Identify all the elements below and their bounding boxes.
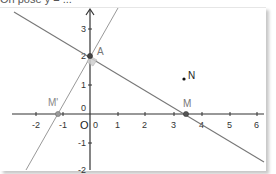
label-M: M [183, 98, 191, 109]
y-tick-label: 0 [81, 103, 86, 113]
x-tick-label: 2 [142, 120, 147, 130]
y-tick-label: 1 [81, 80, 86, 90]
x-tick-label: 1 [115, 120, 120, 130]
x-tick-label: -2 [32, 120, 40, 130]
line-AM [14, 12, 264, 162]
x-tick-label: 5 [227, 120, 232, 130]
y-tick-label: 3 [81, 24, 86, 34]
label-M-prime: M' [48, 97, 58, 108]
x-tick-label: 6 [254, 120, 259, 130]
x-tick-label: 0 [93, 120, 98, 130]
point-A[interactable] [87, 53, 92, 58]
coordinate-plane: -2 -1 0 1 2 3 4 5 6 3 2 1 0 -1 -2 O A M … [0, 0, 276, 174]
label-N: N [188, 70, 195, 81]
x-tick-label: 3 [171, 120, 176, 130]
line-AM-prime [26, 8, 118, 170]
point-M-prime[interactable] [55, 111, 60, 116]
x-tick-label: -1 [59, 120, 67, 130]
y-tick-label: -1 [78, 138, 86, 148]
y-tick-label: -2 [78, 165, 86, 174]
point-M[interactable] [183, 111, 188, 116]
label-A: A [97, 46, 104, 57]
point-N[interactable] [182, 77, 185, 80]
origin-label: O [80, 119, 89, 131]
